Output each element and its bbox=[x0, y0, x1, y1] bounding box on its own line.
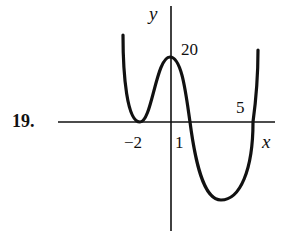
y-axis-label: y bbox=[147, 3, 158, 24]
x-axis-label: x bbox=[261, 131, 271, 152]
x-tick-label-5: 5 bbox=[236, 98, 245, 117]
x-tick-label-1: 1 bbox=[175, 133, 184, 152]
polynomial-curve bbox=[123, 35, 258, 200]
y-tick-label-20: 20 bbox=[181, 40, 198, 59]
polynomial-graph: y 20 −2 1 5 x bbox=[0, 0, 285, 231]
x-tick-label-neg2: −2 bbox=[124, 133, 142, 152]
